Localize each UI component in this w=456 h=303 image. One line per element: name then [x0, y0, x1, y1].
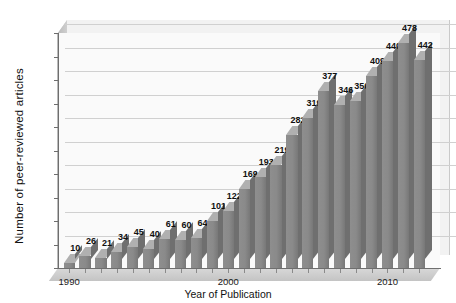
- bar-chart: Number of peer-reviewed articles 1026213…: [0, 0, 456, 303]
- x-axis-tick-mark: [133, 269, 134, 273]
- bar-value-label: 40: [150, 229, 160, 239]
- bar-value-label: 478: [402, 23, 417, 33]
- bar: [111, 252, 122, 268]
- bar: [239, 189, 250, 268]
- bar: [318, 91, 329, 268]
- x-axis-tick-mark: [324, 269, 325, 273]
- x-axis-tick-mark: [403, 269, 404, 273]
- plot-area: 1026213445406160641011221691932192823193…: [58, 33, 440, 268]
- bar-value-label: 34: [118, 232, 128, 242]
- x-axis-tick-mark: [387, 269, 388, 273]
- bar-value-label: 26: [86, 236, 96, 246]
- y-axis-tick-mark: [54, 33, 58, 34]
- bar: [255, 177, 266, 268]
- y-axis-tick-mark: [54, 174, 58, 175]
- bar-value-label: 61: [166, 219, 176, 229]
- x-axis-tick-mark: [165, 269, 166, 273]
- bar: [127, 247, 138, 268]
- y-axis-tick-mark: [54, 268, 58, 269]
- bar-value-label: 346: [338, 85, 353, 95]
- y-axis-tick-mark: [54, 127, 58, 128]
- bar: [334, 105, 345, 268]
- bar-value-label: 442: [418, 40, 433, 50]
- x-axis-tick-mark: [85, 269, 86, 273]
- x-axis-tick-mark: [292, 269, 293, 273]
- x-axis-tick-mark: [228, 269, 229, 273]
- y-axis-tick-mark: [54, 198, 58, 199]
- bar: [95, 258, 106, 268]
- bar-value-label: 377: [322, 71, 337, 81]
- x-axis-tick-mark: [101, 269, 102, 273]
- x-axis-tick-mark: [308, 269, 309, 273]
- bar: [382, 61, 393, 268]
- bar-side-face: [425, 42, 432, 259]
- x-axis-tick-mark: [276, 269, 277, 273]
- x-axis-line: [58, 268, 441, 269]
- x-axis-tick-mark: [181, 269, 182, 273]
- bar-value-label: 10: [70, 243, 80, 253]
- x-axis-tick-mark: [419, 269, 420, 273]
- y-axis-tick-mark: [54, 245, 58, 246]
- gridline: [65, 24, 456, 25]
- x-axis-tick-mark: [244, 269, 245, 273]
- bar: [191, 238, 202, 268]
- x-axis-title: Year of Publication: [0, 288, 456, 300]
- x-axis-tick-mark: [340, 269, 341, 273]
- x-axis-tick-mark: [149, 269, 150, 273]
- y-axis-tick-mark: [54, 151, 58, 152]
- bar: [414, 60, 425, 268]
- plot-front-face: 1026213445406160641011221691932192823193…: [58, 33, 440, 268]
- x-axis-tick-mark: [356, 269, 357, 273]
- bar: [350, 101, 361, 268]
- y-axis-title: Number of peer-reviewed articles: [13, 41, 25, 271]
- bar-value-label: 60: [182, 220, 192, 230]
- x-axis-tick-label: 1990: [59, 276, 80, 287]
- y-axis-tick-mark: [54, 221, 58, 222]
- bar: [398, 43, 409, 268]
- x-axis-tick-mark: [372, 269, 373, 273]
- x-axis-tick-mark: [69, 269, 70, 273]
- bar: [366, 76, 377, 268]
- y-axis-tick-mark: [54, 57, 58, 58]
- y-axis-tick-mark: [54, 80, 58, 81]
- x-axis-tick-label: 2010: [377, 276, 398, 287]
- bar: [302, 118, 313, 268]
- bar: [223, 211, 234, 268]
- bar: [159, 239, 170, 268]
- x-axis-tick-label: 2000: [218, 276, 239, 287]
- bar: [143, 249, 154, 268]
- bar: [79, 256, 90, 268]
- y-axis-tick-mark: [54, 104, 58, 105]
- bar: [286, 135, 297, 268]
- x-axis-tick-mark: [260, 269, 261, 273]
- bar: [175, 240, 186, 268]
- bar-value-label: 21: [102, 238, 112, 248]
- y-axis-line: [58, 33, 59, 269]
- bar: [270, 165, 281, 268]
- bar: [207, 221, 218, 268]
- bar-value-label: 45: [134, 227, 144, 237]
- x-axis-tick-mark: [196, 269, 197, 273]
- x-axis-tick-mark: [212, 269, 213, 273]
- x-axis-tick-mark: [117, 269, 118, 273]
